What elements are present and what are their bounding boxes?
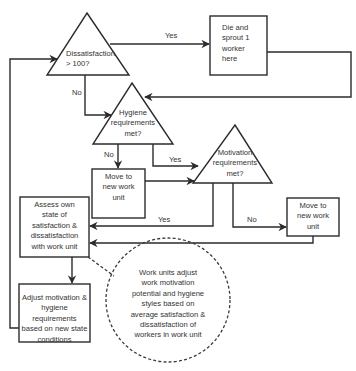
motivation-label: Motivation requirements met? [205, 148, 265, 179]
edge-label-motivation-yes: Yes [158, 215, 170, 224]
hygiene-label: Hygiene requirements met? [104, 108, 162, 139]
dissatisfaction-label: Dissatisfaction > 100? [58, 49, 116, 70]
adjust-label: Adjust motivation & hygiene requirements… [19, 293, 90, 345]
edge-move2-to-assess [90, 236, 313, 243]
move2-label: Move to new work unit [287, 201, 339, 232]
edge-label-motivation-no: No [247, 215, 257, 224]
edge-label-dissatisfaction-no: No [72, 88, 82, 97]
assess-label: Assess own state of satisfaction & dissa… [20, 200, 89, 252]
edge-label-hygiene-yes: Yes [169, 155, 181, 164]
edge-label-dissatisfaction-yes: Yes [165, 31, 177, 40]
edge-motivation-no [233, 183, 286, 227]
work-units-note-label: Work units adjust work motivation potent… [110, 268, 226, 341]
move1-label: Move to new work unit [92, 172, 145, 203]
edge-label-hygiene-no: No [104, 150, 114, 159]
die-sprout-label: Die and sprout 1 worker here [222, 23, 266, 65]
